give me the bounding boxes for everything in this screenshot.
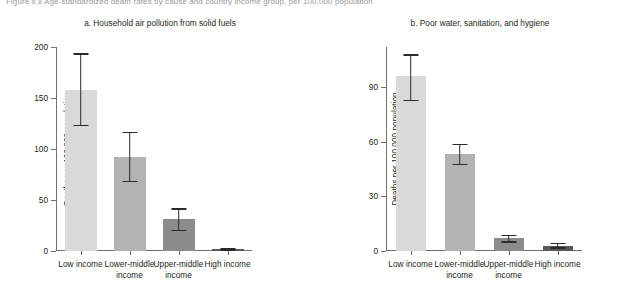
- error-bar-cap: [501, 241, 516, 243]
- chart-panels: a. Household air pollution from solid fu…: [0, 14, 640, 307]
- x-tick: [558, 251, 559, 255]
- error-bar-cap: [403, 54, 418, 56]
- panel-a-y-tick-label: 50: [39, 195, 48, 205]
- error-bar-cap: [550, 247, 565, 249]
- error-bar-cap: [73, 53, 88, 55]
- x-tick-label-line: High income: [190, 259, 266, 270]
- chart-panel-b: b. Poor water, sanitation, and hygiene D…: [320, 14, 640, 307]
- panel-a-title: a. Household air pollution from solid fu…: [0, 18, 320, 28]
- x-tick: [179, 251, 180, 255]
- bar-group: Upper-middleincome: [154, 47, 203, 251]
- bar-group: High income: [533, 47, 582, 251]
- panel-b-plot-area: Deaths per 100,000 population 0306090 Lo…: [386, 47, 582, 251]
- error-bar-cap: [452, 144, 467, 146]
- error-bar-cap: [501, 235, 516, 237]
- bar-group: Lower-middleincome: [435, 47, 484, 251]
- x-tick: [130, 251, 131, 255]
- error-bar-cap: [171, 230, 186, 232]
- error-bar: [410, 54, 412, 100]
- panel-b-y-tick-label: 0: [373, 246, 378, 256]
- panel-a-y-tick-label: 200: [34, 42, 48, 52]
- panel-b-y-tick-label: 60: [369, 137, 378, 147]
- panel-a-bars: Low incomeLower-middleincomeUpper-middle…: [56, 47, 252, 251]
- x-tick-label-line: income: [471, 270, 547, 281]
- error-bar-cap: [452, 164, 467, 166]
- panel-a-y-tick-label: 150: [34, 93, 48, 103]
- panel-b-title: b. Poor water, sanitation, and hygiene: [320, 18, 640, 28]
- error-bar-cap: [403, 100, 418, 102]
- x-tick-label-line: High income: [520, 259, 596, 270]
- error-bar-cap: [73, 125, 88, 127]
- bar-group: Upper-middleincome: [484, 47, 533, 251]
- panel-b-y-tick-label: 90: [369, 82, 378, 92]
- bar-group: High income: [203, 47, 252, 251]
- x-tick: [460, 251, 461, 255]
- x-tick: [81, 251, 82, 255]
- error-bar: [80, 53, 82, 124]
- panel-a-y-tick-label: 0: [43, 246, 48, 256]
- x-tick-label: High income: [190, 259, 266, 270]
- x-tick: [228, 251, 229, 255]
- error-bar: [178, 208, 180, 229]
- panel-b-bars: Low incomeLower-middleincomeUpper-middle…: [386, 47, 582, 251]
- x-tick: [509, 251, 510, 255]
- figure-caption: Figure x.x Age-standardized death rates …: [6, 0, 373, 6]
- error-bar: [459, 144, 461, 164]
- error-bar-cap: [122, 181, 137, 183]
- error-bar-cap: [171, 208, 186, 210]
- x-tick: [411, 251, 412, 255]
- bar-group: Low income: [56, 47, 105, 251]
- bar-group: Low income: [386, 47, 435, 251]
- panel-a-y-tick-label: 100: [34, 144, 48, 154]
- panel-b-y-tick: [381, 251, 386, 252]
- error-bar: [129, 132, 131, 181]
- chart-panel-a: a. Household air pollution from solid fu…: [0, 14, 320, 307]
- x-tick-label: High income: [520, 259, 596, 270]
- panel-a-y-tick: [51, 251, 56, 252]
- panel-b-y-tick-label: 30: [369, 191, 378, 201]
- error-bar-cap: [550, 243, 565, 245]
- bar[interactable]: [396, 76, 426, 251]
- panel-a-plot-area: Deaths per 100,000 population 0501001502…: [56, 47, 252, 251]
- error-bar-cap: [122, 132, 137, 134]
- bar-group: Lower-middleincome: [105, 47, 154, 251]
- bar[interactable]: [445, 154, 475, 251]
- x-tick-label-line: income: [141, 270, 217, 281]
